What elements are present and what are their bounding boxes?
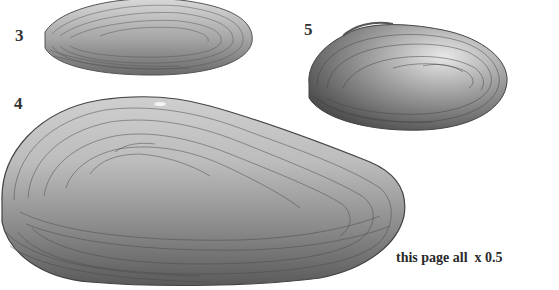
scale-caption: this page all x 0.5 (396, 250, 503, 266)
shell-figure-3 (40, 0, 260, 78)
shell-figure-4 (0, 92, 410, 288)
figure-label-3: 3 (15, 26, 24, 46)
